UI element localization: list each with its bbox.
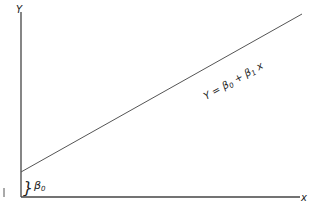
- svg-text:Y = β0 + β1 x: Y = β0 + β1 x: [202, 60, 266, 104]
- y-axis-label: Y: [16, 4, 23, 15]
- line-equation: Y = β0 + β1 x: [202, 60, 266, 104]
- intercept-brace: }: [23, 178, 33, 197]
- x-axis-label: x: [300, 192, 307, 202]
- intercept-label: β0: [33, 179, 46, 193]
- regression-diagram: Y x Y = β0 + β1 x } β0: [0, 0, 309, 202]
- regression-line: [21, 14, 302, 172]
